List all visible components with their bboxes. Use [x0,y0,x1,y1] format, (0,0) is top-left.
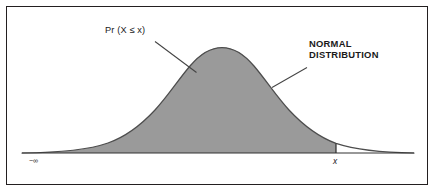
shaded-cumulative-area [22,48,336,154]
normal-distribution-label-line1: NORMAL [309,39,379,50]
probability-label-leader-line [155,42,197,73]
normal-distribution-label-line2: DISTRIBUTION [309,50,379,61]
axis-label-negative-infinity: −∞ [29,157,38,165]
probability-label: Pr (X ≤ x) [105,25,145,35]
normal-distribution-figure: Pr (X ≤ x) NORMALDISTRIBUTION −∞ x [0,0,436,192]
normal-distribution-label: NORMALDISTRIBUTION [309,39,379,60]
distribution-plot [0,0,436,192]
axis-label-x: x [333,157,337,166]
distribution-label-leader-line [272,68,307,88]
